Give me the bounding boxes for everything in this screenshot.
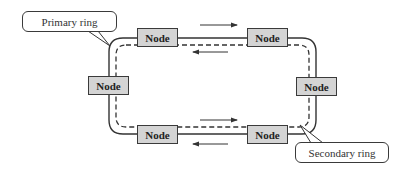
node-label: Node: [145, 32, 169, 44]
primary-callout-pointer: [88, 31, 110, 46]
primary-ring-callout: Primary ring: [22, 11, 117, 32]
secondary-ring-path: [116, 45, 309, 127]
node-right: Node: [296, 77, 337, 96]
node-left: Node: [88, 76, 129, 95]
secondary-ring-label: Secondary ring: [309, 147, 376, 159]
node-bottom-left: Node: [137, 125, 178, 144]
node-label: Node: [304, 81, 328, 93]
node-bottom-right: Node: [247, 125, 288, 144]
node-label: Node: [96, 80, 120, 92]
node-top-right: Node: [247, 28, 288, 47]
node-label: Node: [255, 129, 279, 141]
node-label: Node: [145, 129, 169, 141]
primary-ring-label: Primary ring: [42, 16, 98, 28]
secondary-ring-callout: Secondary ring: [295, 142, 389, 163]
node-label: Node: [255, 32, 279, 44]
node-top-left: Node: [137, 28, 178, 47]
